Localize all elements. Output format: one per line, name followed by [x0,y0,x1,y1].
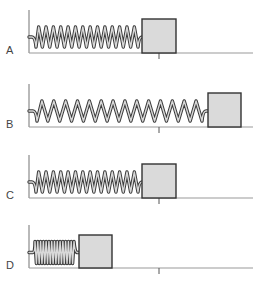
mass-block [208,93,241,127]
panel-d: D [6,225,253,274]
mass-spring-diagram: ABCD [0,0,262,281]
panel-label: D [6,259,14,271]
panel-b: B [6,84,253,133]
panel-a: A [6,10,253,59]
mass-block [142,19,176,53]
mass-block [142,164,176,198]
panel-label: A [6,44,14,56]
panel-c: C [6,155,253,204]
panel-label: C [6,189,14,201]
mass-block [79,235,112,268]
panel-label: B [6,118,13,130]
